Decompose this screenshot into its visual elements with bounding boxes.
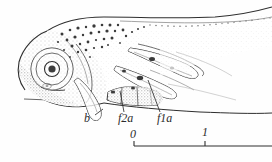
specimen-illustration — [0, 0, 272, 162]
label-barbel: b — [84, 112, 90, 124]
scale-label-0: 0 — [130, 128, 136, 140]
trunk-texture — [160, 36, 272, 100]
eye — [31, 48, 73, 90]
figure-container: b f2a f1a 0 1 — [0, 0, 272, 162]
label-f2a: f2a — [118, 112, 133, 124]
scale-label-1: 1 — [202, 126, 208, 138]
pupil — [48, 65, 55, 72]
label-f1a: f1a — [157, 112, 172, 124]
scale-bar — [134, 141, 272, 146]
